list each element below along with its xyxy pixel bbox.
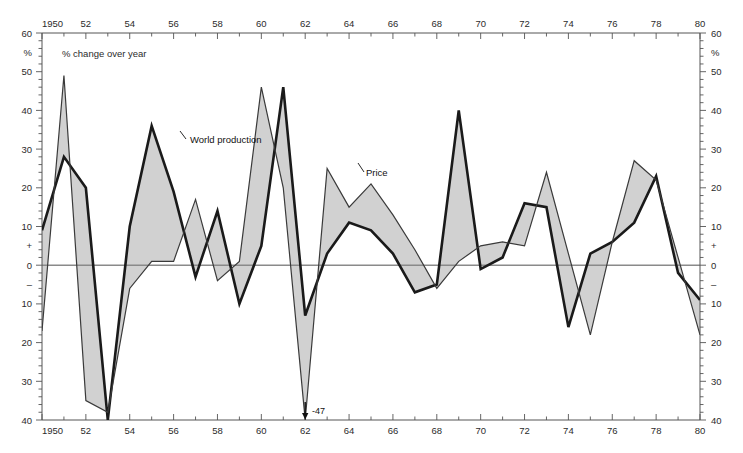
y-axis-tick-label-right: 30 — [711, 376, 722, 387]
x-axis-tick-label-top: 72 — [519, 18, 530, 29]
chart-subtitle: % change over year — [62, 48, 147, 59]
x-axis-tick-label-bottom: 62 — [300, 425, 311, 436]
x-axis-tick-label-top: 64 — [344, 18, 355, 29]
y-axis-tick-label-left: 0 — [27, 260, 32, 271]
x-axis-tick-label-top: 60 — [256, 18, 267, 29]
x-axis-tick-label-bottom: 78 — [651, 425, 662, 436]
y-axis-tick-label-right: 40 — [711, 105, 722, 116]
x-axis-tick-label-top: 66 — [388, 18, 399, 29]
y-axis-tick-label-left: 40 — [21, 105, 32, 116]
y-axis-tick-label-right: 30 — [711, 144, 722, 155]
y-axis-tick-label-left: 60 — [21, 28, 32, 39]
y-axis-tick-label-right: 20 — [711, 337, 722, 348]
y-axis-tick-label-right: 60 — [711, 28, 722, 39]
y-axis-tick-label-right: 10 — [711, 298, 722, 309]
y-axis-tick-label-right: 20 — [711, 182, 722, 193]
x-axis-tick-label-top: 74 — [563, 18, 574, 29]
x-axis-tick-label-top: 54 — [124, 18, 135, 29]
x-axis-tick-label-bottom: 74 — [563, 425, 574, 436]
x-axis-tick-label-top: 52 — [81, 18, 92, 29]
x-axis-tick-label-bottom: 54 — [124, 425, 135, 436]
y-axis-tick-label-left: 20 — [21, 337, 32, 348]
y-axis-tick-label-left: 40 — [21, 415, 32, 426]
x-axis-tick-label-bottom: 72 — [519, 425, 530, 436]
y-axis-tick-label-right: 0 — [711, 260, 716, 271]
y-axis-tick-label-left: 50 — [21, 66, 32, 77]
x-axis-tick-label-bottom: 56 — [168, 425, 179, 436]
series-label-price: Price — [366, 167, 388, 178]
x-axis-tick-label-bottom: 66 — [388, 425, 399, 436]
y-axis-minus-marker-left: – — [27, 279, 33, 290]
x-axis-tick-label-bottom: 76 — [607, 425, 618, 436]
x-axis-tick-label-bottom: 58 — [212, 425, 223, 436]
x-axis-tick-label-top: 76 — [607, 18, 618, 29]
y-axis-plus-marker-right: + — [711, 240, 717, 251]
y-axis-tick-label-left: 10 — [21, 298, 32, 309]
y-axis-minus-marker-right: – — [711, 279, 717, 290]
x-axis-tick-label-bottom: 80 — [695, 425, 706, 436]
x-axis-tick-label-top: 56 — [168, 18, 179, 29]
percent-change-line-chart: 1950195052525454565658586060626264646666… — [0, 0, 743, 453]
annotation-minus-47: -47 — [312, 406, 325, 416]
x-axis-tick-label-top: 1950 — [42, 18, 63, 29]
y-axis-tick-label-right: 10 — [711, 221, 722, 232]
x-axis-tick-label-bottom: 60 — [256, 425, 267, 436]
x-axis-tick-label-bottom: 70 — [475, 425, 486, 436]
x-axis-tick-label-top: 62 — [300, 18, 311, 29]
y-axis-tick-label-left: 30 — [21, 376, 32, 387]
x-axis-tick-label-top: 70 — [475, 18, 486, 29]
y-axis-unit-label-right: % — [711, 47, 720, 58]
x-axis-tick-label-bottom: 52 — [81, 425, 92, 436]
y-axis-tick-label-left: 30 — [21, 144, 32, 155]
y-axis-unit-label-left: % — [24, 47, 33, 58]
y-axis-tick-label-right: 50 — [711, 66, 722, 77]
x-axis-tick-label-top: 68 — [432, 18, 443, 29]
x-axis-tick-label-top: 58 — [212, 18, 223, 29]
x-axis-tick-label-bottom: 1950 — [42, 425, 63, 436]
x-axis-tick-label-bottom: 68 — [432, 425, 443, 436]
y-axis-plus-marker-left: + — [26, 240, 32, 251]
x-axis-tick-label-top: 80 — [695, 18, 706, 29]
x-axis-tick-label-top: 78 — [651, 18, 662, 29]
chart-container: 1950195052525454565658586060626264646666… — [0, 0, 743, 453]
y-axis-tick-label-left: 10 — [21, 221, 32, 232]
x-axis-tick-label-bottom: 64 — [344, 425, 355, 436]
series-label-world-production: World production — [190, 134, 262, 145]
y-axis-tick-label-left: 20 — [21, 182, 32, 193]
y-axis-tick-label-right: 40 — [711, 415, 722, 426]
